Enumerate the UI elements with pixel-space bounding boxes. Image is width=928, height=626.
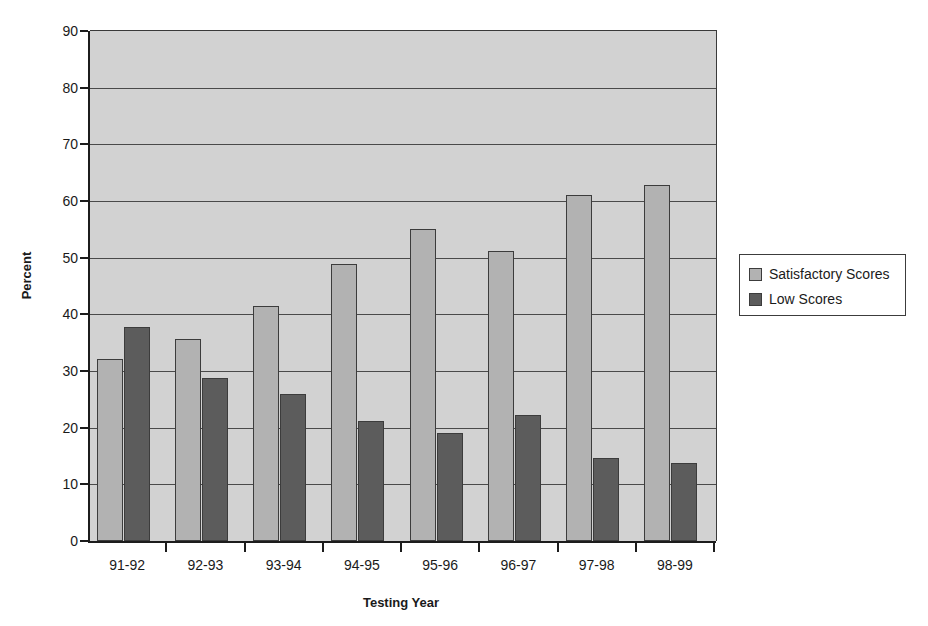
x-tick-mark	[400, 543, 402, 552]
y-tick-mark	[80, 427, 88, 429]
plot-area	[88, 31, 716, 543]
gridline	[90, 201, 716, 202]
legend-label-satisfactory: Satisfactory Scores	[769, 267, 890, 282]
bar-95-96-low	[437, 433, 463, 541]
y-tick-mark	[80, 540, 88, 542]
y-tick-label: 80	[36, 81, 78, 95]
legend-label-low: Low Scores	[769, 292, 842, 307]
y-tick-mark	[80, 313, 88, 315]
x-tick-mark	[244, 543, 246, 552]
y-tick-label: 30	[36, 364, 78, 378]
bar-96-97-low	[515, 415, 541, 541]
y-axis-title: Percent	[19, 236, 34, 316]
bar-97-98-satisfactory	[566, 195, 592, 541]
y-tick-mark	[80, 87, 88, 89]
y-tick-mark	[80, 483, 88, 485]
y-tick-mark	[80, 143, 88, 145]
plot-top-border	[90, 30, 716, 31]
y-tick-label: 90	[36, 24, 78, 38]
bar-chart: Percent 9080706050403020100 91-9292-9393…	[0, 0, 928, 626]
y-tick-label: 20	[36, 421, 78, 435]
gridline	[90, 258, 716, 259]
y-tick-label: 70	[36, 137, 78, 151]
legend-swatch-icon-low	[749, 293, 762, 306]
x-tick-label-98-99: 98-99	[630, 557, 720, 573]
y-tick-mark	[80, 30, 88, 32]
x-tick-mark	[165, 543, 167, 552]
y-tick-label: 10	[36, 477, 78, 491]
bar-93-94-satisfactory	[253, 306, 279, 541]
x-tick-mark	[713, 543, 715, 552]
x-tick-mark	[322, 543, 324, 552]
legend-swatch-icon-satisfactory	[749, 268, 762, 281]
x-tick-mark	[635, 543, 637, 552]
x-tick-mark	[478, 543, 480, 552]
legend-entry-low-scores: Low Scores	[749, 288, 905, 310]
x-tick-label-91-92: 91-92	[82, 557, 172, 573]
bar-92-93-satisfactory	[175, 339, 201, 541]
x-tick-label-97-98: 97-98	[552, 557, 642, 573]
gridline	[90, 88, 716, 89]
y-tick-mark	[80, 370, 88, 372]
bar-96-97-satisfactory	[488, 251, 514, 541]
y-tick-label: 0	[36, 534, 78, 548]
x-tick-label-96-97: 96-97	[473, 557, 563, 573]
gridline	[90, 144, 716, 145]
chart-legend: Satisfactory Scores Low Scores	[739, 254, 906, 316]
y-tick-label: 40	[36, 307, 78, 321]
y-tick-mark	[80, 200, 88, 202]
x-tick-label-93-94: 93-94	[239, 557, 329, 573]
bar-98-99-satisfactory	[644, 185, 670, 541]
bar-97-98-low	[593, 458, 619, 541]
x-axis-title: Testing Year	[88, 595, 714, 610]
bar-95-96-satisfactory	[410, 229, 436, 541]
y-tick-label: 50	[36, 251, 78, 265]
x-tick-label-95-96: 95-96	[395, 557, 485, 573]
gridline	[90, 314, 716, 315]
bar-94-95-low	[358, 421, 384, 541]
bar-98-99-low	[671, 463, 697, 541]
y-tick-label: 60	[36, 194, 78, 208]
x-tick-label-92-93: 92-93	[160, 557, 250, 573]
bar-93-94-low	[280, 394, 306, 541]
bar-94-95-satisfactory	[331, 264, 357, 541]
bar-92-93-low	[202, 378, 228, 541]
bar-91-92-low	[124, 327, 150, 541]
x-tick-mark	[557, 543, 559, 552]
plot-right-border	[716, 30, 717, 541]
x-tick-label-94-95: 94-95	[317, 557, 407, 573]
bar-91-92-satisfactory	[97, 359, 123, 541]
legend-entry-satisfactory-scores: Satisfactory Scores	[749, 263, 905, 285]
y-tick-mark	[80, 257, 88, 259]
